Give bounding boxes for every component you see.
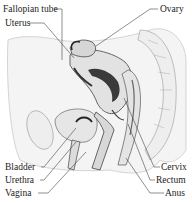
label-vagina: Vagina [5, 188, 31, 198]
label-cervix: Cervix [161, 162, 187, 172]
label-urethra: Urethra [5, 175, 34, 185]
label-anus: Anus [165, 188, 185, 198]
label-rectum: Rectum [156, 175, 186, 185]
anatomy-illustration [0, 0, 192, 203]
label-fallopian-tube: Fallopian tube [3, 4, 58, 14]
label-bladder: Bladder [5, 162, 35, 172]
label-uterus: Uterus [5, 18, 30, 28]
anatomy-diagram: Fallopian tube Uterus Bladder Urethra Va… [0, 0, 192, 203]
label-ovary: Ovary [160, 4, 184, 14]
